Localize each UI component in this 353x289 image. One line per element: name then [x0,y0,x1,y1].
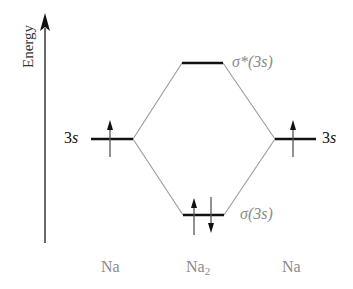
bonding-label: σ(3s) [240,205,273,223]
molecule-label: Na2 [186,258,210,277]
connector-left-to-bonding [133,139,183,215]
right-3s-label-num: 3 [322,129,330,146]
right-3s-level [275,120,316,157]
antibonding-label: σ*(3s) [232,53,273,71]
right-3s-label-orb: s [330,129,336,146]
left-3s-label-num: 3 [64,129,72,146]
right-3s-label: 3s [322,129,336,147]
right-atom-label: Na [282,258,301,276]
spin-up-arrow-icon [191,198,197,235]
left-3s-label-orb: s [72,129,78,146]
mo-diagram [0,0,353,289]
energy-axis [40,13,50,243]
energy-axis-label: Energy [20,17,37,77]
left-atom-label: Na [101,258,120,276]
molecule-label-base: Na [186,258,205,275]
left-3s-level [91,120,133,157]
bonding-level [183,197,224,235]
connector-antibonding-to-right [223,63,275,139]
left-3s-label: 3s [64,129,78,147]
connector-bonding-to-right [224,139,275,215]
connector-left-to-antibonding [133,63,182,139]
molecule-label-subscript: 2 [205,265,211,277]
correlation-lines [133,63,275,215]
